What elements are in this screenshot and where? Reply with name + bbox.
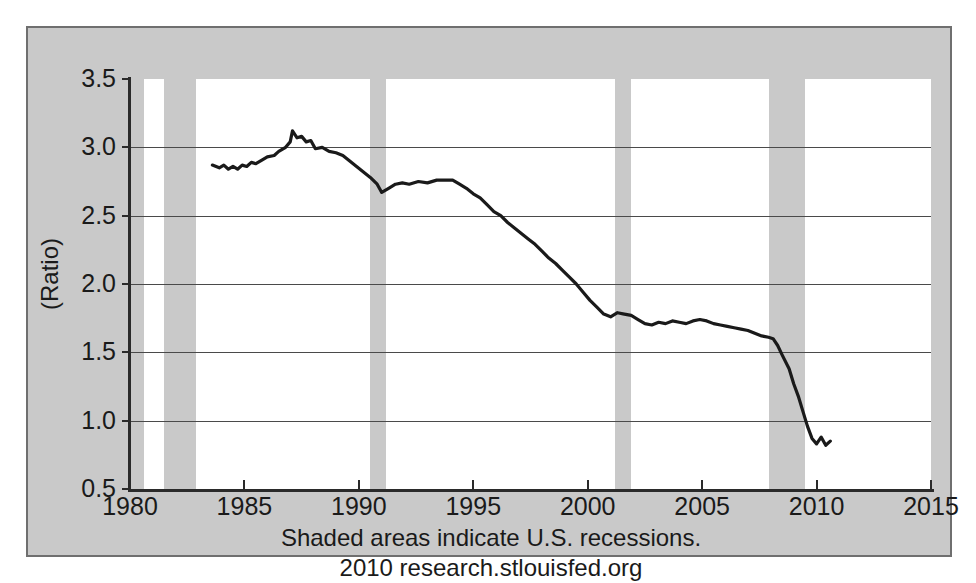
- x-tick-label: 1990: [314, 494, 404, 519]
- caption-line-recessions: Shaded areas indicate U.S. recessions.: [28, 523, 954, 553]
- x-tick-mark: [243, 480, 245, 490]
- y-tick-label: 3.0: [54, 134, 116, 159]
- x-tick-mark: [472, 480, 474, 490]
- x-tick-mark: [358, 480, 360, 490]
- x-tick-mark: [930, 480, 932, 490]
- chart-caption: Shaded areas indicate U.S. recessions. 2…: [28, 523, 954, 583]
- x-tick-label: 2000: [543, 494, 633, 519]
- plot-area: [130, 79, 931, 489]
- x-tick-label: 2015: [886, 494, 976, 519]
- x-tick-label: 1980: [85, 494, 175, 519]
- x-tick-mark: [701, 480, 703, 490]
- x-tick-mark: [816, 480, 818, 490]
- x-tick-label: 1995: [428, 494, 518, 519]
- data-line-ratio: [130, 79, 931, 489]
- x-tick-label: 2005: [657, 494, 747, 519]
- x-tick-mark: [587, 480, 589, 490]
- y-tick-label: 2.5: [54, 203, 116, 228]
- series-path: [212, 131, 830, 445]
- y-tick-label: 3.5: [54, 66, 116, 91]
- x-tick-label: 2010: [772, 494, 862, 519]
- y-tick-label: 1.0: [54, 408, 116, 433]
- y-tick-label: 2.0: [54, 271, 116, 296]
- y-axis-spine: [128, 77, 131, 491]
- y-tick-label: 1.5: [54, 339, 116, 364]
- caption-line-source: 2010 research.stlouisfed.org: [28, 553, 954, 583]
- x-tick-label: 1985: [199, 494, 289, 519]
- chart-card: (Ratio) 3.53.02.52.01.51.00.5 1980198519…: [26, 26, 952, 557]
